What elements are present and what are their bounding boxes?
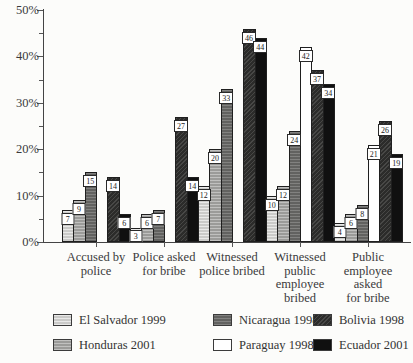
y-minor-tick [39, 126, 43, 127]
bar-value-label: 19 [389, 157, 403, 169]
legend-label: Nicaragua 1998 [239, 313, 318, 327]
bar-value-label: 44 [253, 41, 267, 53]
legend-swatch [213, 339, 232, 351]
bar-value-label: 9 [72, 203, 85, 215]
category-label-line: asked [322, 278, 413, 292]
y-axis-line [43, 9, 44, 243]
bar-value-label: 15 [83, 175, 97, 187]
x-category-tick [300, 242, 301, 247]
bribery-bar-chart: 0%10%20%30%40%50% 7312104962012615733248… [0, 0, 413, 363]
y-minor-tick [39, 80, 43, 81]
y-axis-tick-label: 10% [2, 189, 39, 203]
bar-value-label: 21 [367, 148, 381, 160]
bar-value-label: 12 [276, 189, 290, 201]
bar-value-label: 42 [299, 50, 313, 62]
category-label: Publicemployeeaskedfor bribe [322, 251, 413, 305]
legend-item-el-salvador-1999: El Salvador 1999 [53, 313, 166, 327]
legend-label: Bolivia 1998 [339, 313, 404, 327]
y-axis-tick-label: 20% [2, 142, 39, 156]
bar-ecuador-2001 [255, 38, 267, 242]
x-category-tick [368, 242, 369, 247]
x-axis-line [43, 242, 411, 243]
y-axis-tick-label: 0% [2, 235, 39, 249]
legend-item-paraguay-1998: Paraguay 1998 [213, 338, 314, 352]
x-category-tick [232, 242, 233, 247]
legend-item-ecuador-2001: Ecuador 2001 [313, 338, 409, 352]
legend-swatch [53, 339, 72, 351]
legend-item-nicaragua-1998: Nicaragua 1998 [213, 313, 318, 327]
y-minor-tick [39, 219, 43, 220]
legend-item-bolivia-1998: Bolivia 1998 [313, 313, 404, 327]
x-category-tick [96, 242, 97, 247]
bar-value-label: 33 [219, 92, 233, 104]
legend-swatch [213, 314, 232, 326]
legend-swatch [313, 339, 332, 351]
y-axis-tick-label: 30% [2, 96, 39, 110]
legend-label: El Salvador 1999 [79, 313, 166, 327]
category-label-line: for bribe [322, 292, 413, 306]
category-label-line: Public [322, 251, 413, 265]
bar-nicaragua-1998 [221, 89, 233, 242]
y-axis-tick-label: 40% [2, 49, 39, 63]
bar-value-label: 14 [185, 180, 199, 192]
bar-value-label: 14 [106, 180, 120, 192]
category-label-line: employee [322, 265, 413, 279]
bar-value-label: 24 [287, 134, 301, 146]
bar-value-label: 20 [208, 152, 222, 164]
legend-swatch [313, 314, 332, 326]
y-minor-tick [39, 172, 43, 173]
bar-ecuador-2001 [323, 84, 335, 242]
legend-label: Ecuador 2001 [339, 338, 409, 352]
legend-label: Paraguay 1998 [239, 338, 314, 352]
bar-value-label: 7 [152, 213, 165, 225]
y-minor-tick [39, 33, 43, 34]
bar-value-label: 8 [356, 208, 369, 220]
bar-value-label: 34 [321, 87, 335, 99]
bar-value-label: 37 [310, 73, 324, 85]
bar-value-label: 27 [174, 120, 188, 132]
legend-item-honduras-2001: Honduras 2001 [53, 338, 156, 352]
bar-value-label: 26 [378, 124, 392, 136]
x-category-tick [164, 242, 165, 247]
legend-swatch [53, 314, 72, 326]
y-axis-tick-label: 50% [2, 3, 39, 17]
legend-label: Honduras 2001 [79, 338, 156, 352]
bar-value-label: 6 [118, 217, 131, 229]
bar-value-label: 3 [129, 230, 142, 242]
